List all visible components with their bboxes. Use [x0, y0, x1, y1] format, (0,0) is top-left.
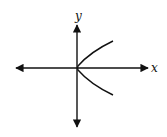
y-axis-label: y: [74, 9, 82, 23]
graph-diagram: y x: [0, 0, 167, 137]
x-axis-label: x: [151, 61, 158, 75]
